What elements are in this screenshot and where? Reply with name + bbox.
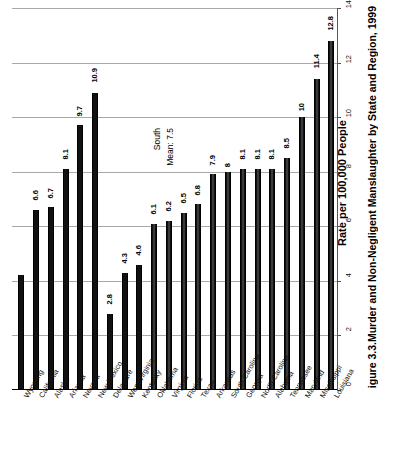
- bar-value-label: 10.9: [90, 68, 99, 83]
- south-mean-line1: South: [152, 128, 162, 150]
- south-mean-annotation: South Mean: 7.5: [152, 128, 198, 198]
- bar-value-label: 8.1: [267, 149, 276, 159]
- bar: [33, 210, 39, 390]
- axis-tick-label: 12: [344, 55, 353, 63]
- axis-tick-label: 10: [344, 109, 353, 117]
- figure-caption-text: Murder and Non-Negligent Manslaughter by…: [366, 6, 378, 342]
- bar: [240, 169, 246, 390]
- bar: [63, 169, 69, 390]
- bar: [77, 125, 83, 390]
- bar-value-label: 9.7: [75, 106, 84, 116]
- bar-value-label: 4.3: [120, 253, 129, 263]
- bar: [18, 275, 24, 390]
- axis-tick: [337, 63, 341, 64]
- bar-value-label: 4.6: [134, 245, 143, 255]
- bar-value-label: 8.1: [253, 149, 262, 159]
- bar-value-label: 6.2: [164, 201, 173, 211]
- figure-caption-number: igure 3.3.: [366, 342, 378, 388]
- gridline: [12, 117, 337, 118]
- bar-value-label: 11.4: [312, 54, 321, 68]
- bar: [181, 213, 187, 390]
- gridline: [12, 63, 337, 64]
- bar: [269, 169, 275, 390]
- bar-value-label: 8.5: [282, 138, 291, 148]
- value-axis-title: Rate per 100,000 People: [336, 120, 348, 246]
- bar-value-label: 6.6: [31, 190, 40, 200]
- chart-plot-area: 6.66.78.19.710.92.84.34.66.16.26.56.87.9…: [12, 8, 337, 390]
- bar-value-label: 2.8: [105, 294, 114, 304]
- bar: [195, 204, 201, 390]
- bar-value-label: 8: [223, 163, 232, 167]
- axis-tick-label: 2: [344, 327, 353, 331]
- bar-value-label: 7.9: [208, 155, 217, 165]
- figure-page: 6.66.78.19.710.92.84.34.66.16.26.56.87.9…: [0, 0, 401, 451]
- axis-tick: [337, 335, 341, 336]
- bar-value-label: 8.1: [238, 149, 247, 159]
- axis-tick-label: 4: [344, 273, 353, 277]
- bar-value-label: 6.7: [46, 188, 55, 198]
- bar: [225, 172, 231, 390]
- bar: [48, 207, 54, 390]
- axis-tick: [337, 8, 341, 9]
- bar-value-label: 6.1: [149, 204, 158, 214]
- bar-value-label: 12.8: [326, 16, 335, 31]
- axis-tick: [337, 117, 341, 118]
- bar: [328, 41, 334, 390]
- gridline: [12, 8, 337, 9]
- bar: [92, 93, 98, 390]
- figure-caption: igure 3.3.Murder and Non-Negligent Mansl…: [366, 6, 378, 388]
- bar: [299, 117, 305, 390]
- bar-value-label: 8.1: [61, 149, 70, 159]
- south-mean-line2: Mean: 7.5: [165, 128, 175, 166]
- bar-value-label: 10: [297, 103, 306, 111]
- bar: [314, 79, 320, 390]
- axis-tick-label: 14: [344, 0, 353, 8]
- axis-tick: [337, 281, 341, 282]
- bar: [210, 174, 216, 390]
